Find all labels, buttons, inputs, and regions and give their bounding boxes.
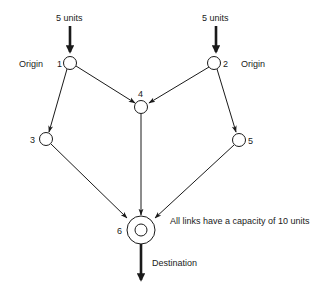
node-5: 5 <box>233 134 254 147</box>
supply-label-node-2: 5 units <box>202 13 229 23</box>
capacity-note: All links have a capacity of 10 units <box>170 216 310 226</box>
edge-3-6 <box>51 144 127 218</box>
node-4-circle <box>135 101 148 114</box>
node-4-label: 4 <box>138 89 143 99</box>
origin-label-node-2: Origin <box>241 59 265 69</box>
edge-1-4 <box>76 66 135 103</box>
edge-2-4 <box>149 67 209 103</box>
edge-1-3 <box>49 69 67 132</box>
node-6-inner-circle <box>135 224 147 236</box>
destination-label: Destination <box>152 258 197 268</box>
node-5-circle <box>233 134 246 147</box>
node-2-label: 2 <box>223 59 228 69</box>
network-flow-diagram: 5 units 5 units Origin Origin 1 2 3 4 5 … <box>0 0 323 294</box>
edge-2-5 <box>217 69 236 132</box>
node-3-label: 3 <box>30 135 35 145</box>
node-6-label: 6 <box>117 226 122 236</box>
node-2: 2 <box>208 57 229 70</box>
supply-label-node-1: 5 units <box>56 13 83 23</box>
node-1-circle <box>64 57 77 70</box>
origin-label-node-1: Origin <box>19 59 43 69</box>
edge-5-6 <box>155 145 234 218</box>
node-6: 6 <box>117 216 155 244</box>
node-5-label: 5 <box>248 136 253 146</box>
node-1: 1 <box>57 57 77 70</box>
node-4: 4 <box>135 89 148 114</box>
node-3: 3 <box>30 133 53 146</box>
node-2-circle <box>208 57 221 70</box>
node-1-label: 1 <box>57 59 62 69</box>
node-3-circle <box>40 133 53 146</box>
